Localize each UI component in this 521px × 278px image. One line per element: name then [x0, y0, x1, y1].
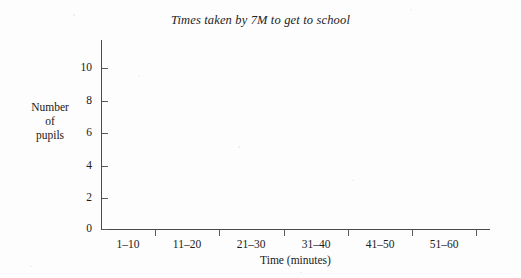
y-axis-title-line: of	[14, 114, 86, 128]
x-axis-tick	[219, 230, 220, 236]
scan-speckle	[300, 272, 302, 273]
x-axis-tick	[412, 230, 413, 236]
x-axis-title: Time (minutes)	[101, 254, 490, 266]
plot-area	[102, 40, 490, 229]
x-axis-tick-label: 41–50	[348, 238, 412, 250]
x-axis-tick	[348, 230, 349, 236]
x-axis-tick-label: 1–10	[96, 238, 160, 250]
y-axis-tick	[102, 166, 108, 167]
chart-figure: Times taken by 7M to get to school 10 8 …	[0, 0, 521, 278]
y-axis-title-line: pupils	[14, 128, 86, 142]
y-axis-tick-label: 0	[66, 222, 92, 234]
y-axis-tick	[102, 133, 108, 134]
y-axis-tick	[102, 68, 108, 69]
y-axis-tick-label: 4	[66, 159, 92, 171]
y-axis-tick-label: 2	[66, 191, 92, 203]
x-axis-line	[101, 229, 490, 230]
x-axis-tick	[284, 230, 285, 236]
y-axis-title-line: Number	[14, 100, 86, 114]
x-axis-tick-label: 21–30	[219, 238, 283, 250]
scan-speckle	[410, 9, 412, 10]
x-axis-tick	[476, 230, 477, 236]
chart-title: Times taken by 7M to get to school	[0, 13, 521, 28]
x-axis-tick	[155, 230, 156, 236]
x-axis-tick-label: 51–60	[412, 238, 476, 250]
x-axis-tick-label: 31–40	[284, 238, 348, 250]
x-axis-tick-label: 11–20	[155, 238, 219, 250]
y-axis-tick	[102, 198, 108, 199]
y-axis-title: Number of pupils	[14, 100, 86, 142]
y-axis-tick-label: 10	[66, 61, 92, 73]
y-axis-tick	[102, 101, 108, 102]
scan-speckle	[30, 266, 32, 267]
y-axis-tick	[102, 229, 108, 230]
